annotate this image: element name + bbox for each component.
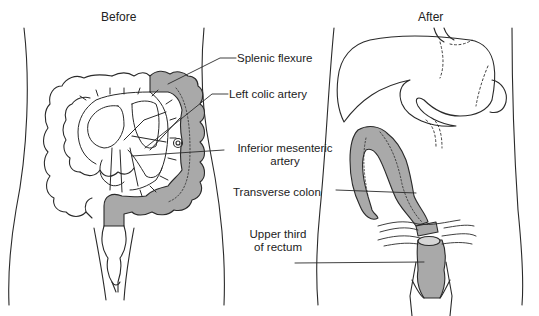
label-inferior-mesenteric-line1: Inferior mesenteric xyxy=(224,142,346,155)
esophagus xyxy=(434,28,454,42)
rectal-stump-opening xyxy=(418,237,440,246)
label-left-colic-artery: Left colic artery xyxy=(229,88,307,101)
liver-outline xyxy=(337,28,506,126)
liver-dashed xyxy=(426,40,488,148)
label-splenic-flexure: Splenic flexure xyxy=(237,52,312,65)
label-upper-third-line1: Upper third xyxy=(243,228,313,241)
label-upper-third-of-rectum: Upper third of rectum xyxy=(243,228,313,254)
label-upper-third-line2: of rectum xyxy=(243,241,313,254)
colon-resection-diagram: Before After Splenic flexure Left colic … xyxy=(0,0,539,316)
after-title: After xyxy=(418,10,443,24)
before-title: Before xyxy=(101,10,136,24)
before-rectum xyxy=(94,226,134,300)
label-inferior-mesenteric-artery: Inferior mesenteric artery xyxy=(224,142,346,168)
label-transverse-colon: Transverse colon xyxy=(233,186,321,199)
label-inferior-mesenteric-line2: artery xyxy=(224,155,346,168)
